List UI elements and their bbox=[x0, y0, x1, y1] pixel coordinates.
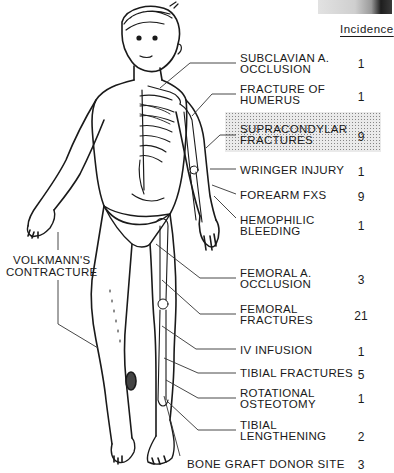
label-forearm-fxs: FOREARM FXS bbox=[240, 190, 326, 201]
incidence-column-header: Incidence bbox=[340, 23, 394, 35]
label-volkmanns-contracture: VOLKMANN'S CONTRACTURE bbox=[6, 254, 97, 278]
incidence-tibial-fractures: 5 bbox=[354, 368, 368, 382]
incidence-iv-infusion: 1 bbox=[354, 345, 368, 359]
incidence-forearm-fxs: 9 bbox=[354, 190, 368, 204]
incidence-supracondylar-fractures: 9 bbox=[354, 130, 368, 144]
incidence-tibial-lengthening: 2 bbox=[354, 430, 368, 444]
label-rotational-osteotomy: ROTATIONAL OSTEOTOMY bbox=[240, 388, 316, 410]
incidence-subclavian-occlusion: 1 bbox=[354, 57, 368, 71]
incidence-fracture-of-humerus: 1 bbox=[354, 90, 368, 104]
label-iv-infusion: IV INFUSION bbox=[240, 345, 312, 356]
label-bone-graft-donor-site: BONE GRAFT DONOR SITE bbox=[187, 458, 345, 470]
label-supracondylar-fractures: SUPRACONDYLAR FRACTURES bbox=[240, 124, 347, 146]
label-hemophilic-bleeding: HEMOPHILIC BLEEDING bbox=[240, 215, 315, 237]
incidence-femoral-fractures: 21 bbox=[354, 309, 368, 323]
label-tibial-fractures: TIBIAL FRACTURES bbox=[240, 368, 353, 379]
label-wringer-injury: WRINGER INJURY bbox=[240, 165, 344, 176]
incidence-femoral-a-occlusion: 3 bbox=[354, 273, 368, 287]
incidence-wringer-injury: 1 bbox=[354, 165, 368, 179]
label-femoral-fractures: FEMORAL FRACTURES bbox=[240, 304, 313, 326]
label-tibial-lengthening: TIBIAL LENGTHENING bbox=[240, 420, 326, 442]
incidence-rotational-osteotomy: 1 bbox=[354, 392, 368, 406]
label-fracture-of-humerus: FRACTURE OF HUMERUS bbox=[240, 84, 325, 106]
label-subclavian-occlusion: SUBCLAVIAN A. OCCLUSION bbox=[240, 53, 329, 75]
incidence-bone-graft-donor-site: 3 bbox=[354, 458, 368, 472]
incidence-hemophilic-bleeding: 1 bbox=[354, 219, 368, 233]
label-femoral-a-occlusion: FEMORAL A. OCCLUSION bbox=[240, 268, 312, 290]
